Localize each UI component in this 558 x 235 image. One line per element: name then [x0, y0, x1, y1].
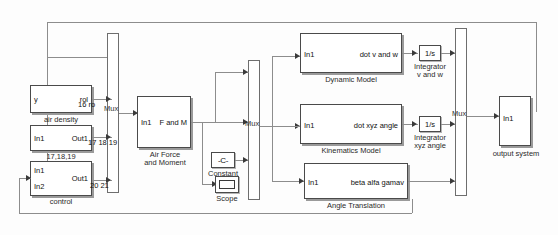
integrator-xyz-caption-line2: xyz angle	[414, 141, 446, 150]
arrow-control-in2	[26, 175, 31, 181]
afm-in1-label: In1	[141, 119, 151, 127]
block-scope[interactable]	[215, 176, 239, 193]
block-output-system[interactable]: In1	[499, 96, 531, 146]
kinematics-in1-label: In1	[304, 122, 314, 130]
feedback-bottom-left-vertical	[19, 178, 20, 213]
mux-right-label: Mux	[452, 110, 466, 118]
integrator-vw-glyph: 1/s	[420, 49, 440, 58]
dynamic-model-caption: Dynamic Model	[300, 76, 402, 84]
arrow-integrator-vw-in	[412, 50, 417, 56]
feedback-bottom-right-vertical	[412, 199, 413, 213]
dynamic-model-out1-label: dot v and w	[360, 51, 398, 59]
mux-left-label: Mux	[104, 105, 118, 113]
wire-mid-mux-top-feed-vertical	[215, 72, 216, 122]
kinematics-out1-label: dot xyz angle	[354, 122, 398, 130]
mux-mid-label: Mux	[245, 120, 259, 128]
feedback-bus-right-vertical	[536, 22, 537, 112]
angle-translation-out1-label: beta alfa gamav	[351, 179, 404, 187]
feedback-bottom-horizontal	[19, 213, 412, 214]
block-subsystem-171819[interactable]: In1 Out1	[30, 125, 92, 151]
output-system-caption: output system	[483, 150, 549, 158]
block-mux-mid[interactable]	[248, 60, 260, 200]
control-in1-label: In1	[34, 167, 44, 175]
arrow-mux-in2	[106, 96, 111, 102]
subsystem-out1-label: Out1	[72, 135, 88, 143]
angle-translation-in1-label: In1	[308, 179, 318, 187]
integrator-xyz-glyph: 1/s	[420, 120, 440, 129]
integrator-vw-caption: Integrator v and w	[406, 63, 454, 79]
scope-icon	[219, 180, 235, 189]
feedback-bus-top-horizontal	[47, 22, 536, 23]
integrator-vw-caption-line2: v and w	[417, 70, 443, 79]
output-system-in1-label: In1	[503, 115, 513, 123]
signal-17-18-19: 17 18 19	[88, 139, 117, 147]
block-kinematics-model[interactable]: In1 dot xyz angle	[300, 104, 402, 144]
block-constant[interactable]: -C-	[211, 152, 235, 168]
kinematics-model-caption: Kinematics Model	[298, 147, 404, 155]
arrow-mux-mid-in1	[243, 69, 248, 75]
block-control[interactable]: In1 In2 Out1	[30, 161, 92, 196]
arrow-integrator-xyz-in	[412, 121, 417, 127]
block-angle-translation[interactable]: In1 beta alfa gamav	[304, 163, 408, 199]
wire-top-inner-to-mux	[47, 57, 113, 58]
angle-translation-caption: Angle Translation	[300, 202, 412, 210]
dynamic-model-in1-label: In1	[304, 51, 314, 59]
scope-caption: Scope	[204, 195, 250, 203]
control-in2-label: In2	[34, 183, 44, 191]
afm-caption: Air Force and Moment	[130, 151, 200, 167]
air-density-in1-label: y	[34, 96, 38, 104]
signal-20-21: 20 21	[90, 182, 109, 190]
block-integrator-vw[interactable]: 1/s	[419, 45, 441, 61]
block-dynamic-model[interactable]: In1 dot v and w	[300, 33, 402, 73]
wire-mux-mid-distribution	[272, 56, 273, 181]
subsystem-in1-label: In1	[34, 135, 44, 143]
wire-afm-out	[191, 122, 248, 123]
control-out1-label: Out1	[72, 175, 88, 183]
subsystem-171819-caption: 17,18,19	[20, 153, 102, 161]
afm-out1-label: F and M	[159, 119, 187, 127]
wire-to-kinematics-model	[272, 126, 300, 127]
air-density-caption: air density	[20, 116, 102, 124]
wire-angle-translation-to-mux-right	[408, 181, 455, 182]
block-mux-left[interactable]	[107, 33, 119, 193]
control-caption: control	[20, 198, 102, 206]
block-diagram-canvas: y rol air density In1 Out1 17,18,19 In1 …	[0, 0, 558, 235]
block-integrator-xyz[interactable]: 1/s	[419, 116, 441, 132]
signal-16-ro: 16 ro	[78, 101, 95, 109]
afm-caption-line2: and Moment	[144, 158, 186, 167]
constant-glyph: -C-	[212, 156, 234, 165]
integrator-xyz-caption: Integrator xyz angle	[404, 134, 456, 150]
block-air-force-and-moment[interactable]: In1 F and M	[137, 96, 191, 148]
